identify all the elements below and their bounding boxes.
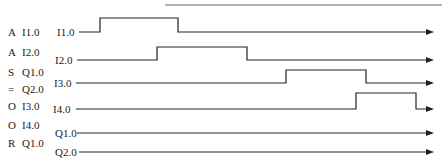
- arrowhead-icon: [426, 29, 434, 35]
- arrowhead-icon: [426, 57, 434, 63]
- waveform-i1-0: [79, 18, 434, 35]
- waveform-i4-0: [76, 93, 434, 112]
- arrowhead-icon: [426, 80, 434, 86]
- waveform-i2-0: [77, 47, 434, 63]
- arrowhead-icon: [426, 130, 434, 136]
- waveform-i3-0: [76, 70, 434, 86]
- waveform-q1-0: [77, 130, 434, 136]
- timing-diagram: [0, 0, 442, 163]
- arrowhead-icon: [426, 149, 434, 155]
- arrowhead-icon: [426, 106, 434, 112]
- waveform-q2-0: [79, 149, 434, 155]
